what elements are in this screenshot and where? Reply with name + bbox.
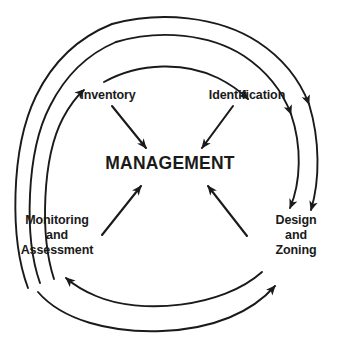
node-label-inventory: Inventory — [58, 88, 158, 103]
node-label-identification: Identification — [186, 88, 308, 103]
node-label-monitoring-line-2: and — [3, 228, 111, 243]
outer-arc-bottom-inner-to-monitoring — [66, 272, 262, 306]
node-label-monitoring-line-3: Assessment — [3, 243, 111, 258]
outer-arc-right-outer-to-design — [309, 104, 318, 210]
outer-arc-bottom-outer-to-design — [38, 286, 275, 331]
node-label-design-line-1: Design — [255, 213, 337, 228]
center-label-management-text: MANAGEMENT — [74, 153, 266, 174]
management-cycle-diagram: Inventory Identification MANAGEMENT Moni… — [0, 0, 339, 338]
node-label-design-line-3: Zoning — [255, 243, 337, 258]
node-label-monitoring-assessment: Monitoring and Assessment — [3, 213, 111, 257]
node-label-design-line-2: and — [255, 228, 337, 243]
node-label-design-zoning: Design and Zoning — [255, 213, 337, 257]
node-label-monitoring-line-1: Monitoring — [3, 213, 111, 228]
inner-arrow-inventory-to-management — [112, 106, 146, 148]
center-label-management: MANAGEMENT — [74, 153, 266, 174]
node-label-inventory-line-1: Inventory — [58, 88, 158, 103]
inner-arrow-design-to-management — [208, 186, 247, 236]
inner-arrow-identification-to-management — [202, 106, 233, 148]
outer-arc-right-inner-to-design — [290, 114, 299, 208]
node-label-identification-line-1: Identification — [186, 88, 308, 103]
